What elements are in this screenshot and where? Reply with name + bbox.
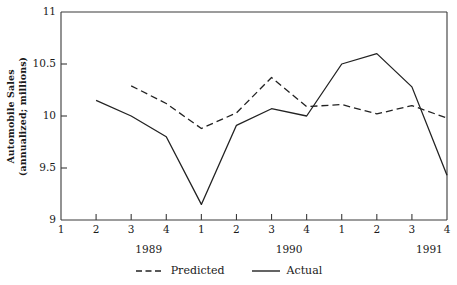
plot-area — [0, 0, 457, 285]
y-axis-tick-labels: 1110.5109.59 — [28, 0, 56, 232]
axis-frame — [61, 12, 447, 220]
series-predicted — [131, 78, 447, 129]
x-tick-label: 2 — [86, 223, 106, 235]
legend-label-predicted: Predicted — [171, 264, 225, 277]
legend-swatch-solid — [251, 266, 281, 276]
legend-item-actual[interactable]: Actual — [251, 264, 323, 277]
x-tick-label: 3 — [262, 223, 282, 235]
y-axis-label-line1: Automobile Sales — [6, 69, 17, 163]
x-axis-year-label: 1990 — [266, 243, 312, 255]
chart-legend: Predicted Actual — [0, 264, 457, 277]
x-tick-label: 4 — [297, 223, 317, 235]
y-tick-label: 10.5 — [28, 57, 56, 69]
x-tick-label: 1 — [191, 223, 211, 235]
series-actual — [96, 54, 447, 205]
legend-swatch-dashed — [135, 266, 165, 276]
legend-item-predicted[interactable]: Predicted — [135, 264, 225, 277]
x-tick-label: 1 — [51, 223, 71, 235]
y-tick-label: 11 — [28, 5, 56, 17]
data-series — [96, 54, 447, 205]
x-tick-label: 4 — [437, 223, 457, 235]
axis-ticks — [61, 64, 412, 220]
x-tick-label: 2 — [367, 223, 387, 235]
automobile-sales-chart: Automobile Sales (annualized; millions) … — [0, 0, 457, 285]
x-tick-label: 4 — [156, 223, 176, 235]
x-axis-year-label: 1991 — [406, 243, 452, 255]
x-axis-year-label: 1989 — [126, 243, 172, 255]
y-axis-label-line2: (annualized; millions) — [17, 56, 29, 175]
x-tick-label: 2 — [226, 223, 246, 235]
x-tick-label: 3 — [402, 223, 422, 235]
x-tick-label: 3 — [121, 223, 141, 235]
y-tick-label: 10 — [28, 109, 56, 121]
x-tick-label: 1 — [332, 223, 352, 235]
y-tick-label: 9.5 — [28, 161, 56, 173]
legend-label-actual: Actual — [287, 264, 323, 277]
